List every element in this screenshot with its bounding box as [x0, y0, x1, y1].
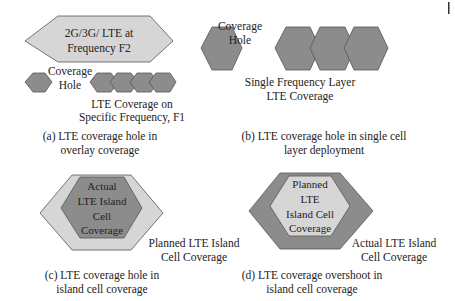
hole-label-line1: Coverage [48, 65, 92, 78]
caption-a-line2: overlay coverage [61, 144, 140, 157]
f1-cells [90, 73, 176, 92]
caption-c-line1: (c) LTE coverage hole in [45, 269, 160, 282]
overlay-f2-hexagon [25, 16, 173, 62]
cells-b-label-line1: Single Frequency Layer [245, 76, 356, 89]
inner-d-line2: LTE [300, 193, 319, 205]
caption-c-line2: island cell coverage [56, 283, 147, 296]
caption-d-line1: (d) LTE coverage overshoot in [242, 269, 383, 282]
outer-c-label-line1: Planned LTE Island [149, 237, 240, 249]
inner-d-line3: Island Cell [286, 208, 334, 220]
cells-b-label-line2: LTE Coverage [267, 90, 334, 103]
inner-c-line2: LTE Island [78, 195, 127, 207]
panel-d: Planned LTE Island Cell Coverage Actual … [242, 173, 437, 296]
page-edge-mark [448, 2, 450, 14]
caption-b-line2: layer deployment [284, 144, 365, 157]
caption-b-line1: (b) LTE coverage hole in single cell [242, 130, 407, 143]
inner-d-line4: Coverage [289, 222, 331, 234]
outer-c-label-line2: Cell Coverage [161, 251, 227, 264]
hole-b-label-line1: Coverage [218, 20, 262, 33]
cells-label-line2: Specific Frequency, F1 [79, 111, 185, 124]
cells-label-line1: LTE Coverage on [91, 98, 173, 111]
inner-c-line1: Actual [87, 180, 116, 192]
inner-c-line3: Cell [93, 210, 111, 222]
caption-a-line1: (a) LTE coverage hole in [43, 130, 158, 143]
outer-d-label-line2: Cell Coverage [361, 251, 427, 264]
caption-d-line2: island cell coverage [266, 283, 357, 296]
overlay-label-line1: 2G/3G/ LTE at [65, 27, 134, 39]
panel-b: Coverage Hole Single Frequency Layer LTE… [201, 20, 407, 157]
single-layer-cells [275, 27, 388, 70]
overlay-label-line2: Frequency F2 [67, 42, 131, 55]
inner-d-line1: Planned [292, 178, 328, 190]
panel-c: Actual LTE Island Cell Coverage Planned … [40, 175, 240, 296]
hole-b-label-line2: Hole [229, 34, 251, 46]
inner-c-line4: Coverage [81, 224, 123, 236]
coverage-diagram: 2G/3G/ LTE at Frequency F2 Coverage Hole… [0, 0, 455, 301]
panel-a: 2G/3G/ LTE at Frequency F2 Coverage Hole… [25, 16, 185, 157]
hole-label-line2: Hole [59, 79, 81, 91]
outer-d-label-line1: Actual LTE Island [352, 237, 437, 249]
